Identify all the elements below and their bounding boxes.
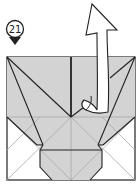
pin-point-icon [9,37,21,45]
folded-paper-square [7,57,135,180]
step-marker: 21 [7,21,24,46]
origami-diagram: 21 [0,0,140,189]
step-number: 21 [9,24,22,35]
